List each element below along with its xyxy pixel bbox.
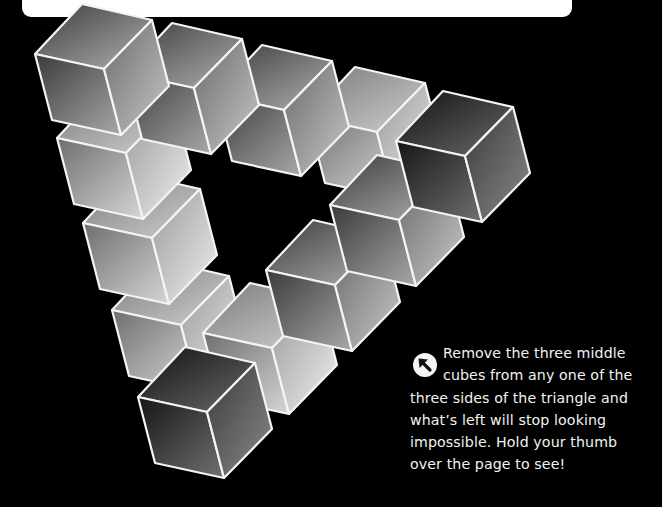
caption-line: what’s left will stop looking [410,409,660,431]
caption-line: cubes from any one of the [410,364,660,386]
caption-text: Remove the three middle cubes from any o… [410,342,660,476]
caption-line: impossible. Hold your thumb [410,431,660,453]
caption-line: over the page to see! [410,453,660,475]
caption-line: three sides of the triangle and [410,387,660,409]
caption-line: Remove the three middle [410,342,660,364]
